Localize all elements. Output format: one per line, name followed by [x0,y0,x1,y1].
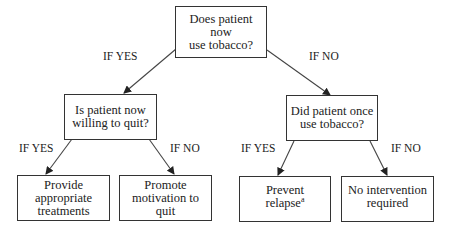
edge-once-none [370,141,387,175]
edge-once-relapse [278,141,294,175]
node-uses-tobacco: Does patient now use tobacco? [175,6,267,58]
node-line: quit [132,205,199,218]
footnote-marker: a [301,195,305,204]
edge-label-no: IF NO [170,142,200,154]
edge-label-yes: IF YES [103,50,137,62]
node-line: Provide [35,179,92,192]
edge-label-yes: IF YES [241,142,275,154]
node-line: Does patient now [178,13,264,39]
node-prevent-relapse: Prevent relapsea [239,176,331,222]
edge-label-yes: IF YES [19,142,53,154]
node-line: required [348,197,427,210]
node-line: relapsea [266,197,305,210]
edge-label-no: IF NO [309,50,339,62]
node-willing-to-quit: Is patient now willing to quit? [64,94,157,140]
node-promote-motivation: Promote motivation to quit [119,175,212,221]
node-line: treatments [35,205,92,218]
edge-label-no: IF NO [391,142,421,154]
node-line: use tobacco? [291,118,374,131]
node-line: appropriate [35,192,92,205]
node-provide-treatments: Provide appropriate treatments [17,175,110,221]
node-line: motivation to [132,192,199,205]
node-line-text: relapse [266,196,301,210]
node-line: use tobacco? [178,39,264,52]
node-line: Promote [132,179,199,192]
node-once-used-tobacco: Did patient once use tobacco? [286,95,378,141]
node-line: willing to quit? [72,117,148,130]
node-no-intervention: No intervention required [341,176,434,222]
